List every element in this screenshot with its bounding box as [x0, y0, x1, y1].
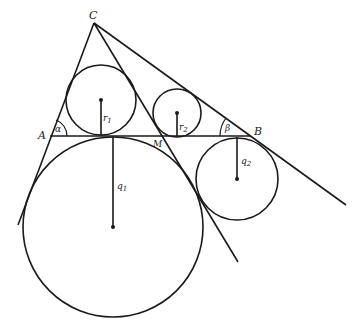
label-r1: r1 — [103, 113, 112, 125]
label-r2: r2 — [179, 122, 188, 134]
label-a: A — [37, 129, 46, 142]
center-r2 — [175, 111, 179, 115]
center-q1 — [111, 225, 115, 229]
label-q1: q1 — [117, 181, 127, 193]
geometry-diagram: C A B M α β r1 r2 q1 q2 — [0, 0, 360, 333]
line-cm-extended — [94, 23, 238, 262]
label-q2: q2 — [241, 156, 252, 168]
label-beta: β — [224, 123, 230, 133]
label-b: B — [253, 125, 262, 138]
center-r1 — [99, 98, 103, 102]
label-alpha: α — [55, 124, 61, 134]
center-q2 — [235, 177, 239, 181]
label-c: C — [89, 9, 98, 22]
line-cb-extended — [94, 23, 346, 205]
label-m: M — [152, 139, 163, 149]
